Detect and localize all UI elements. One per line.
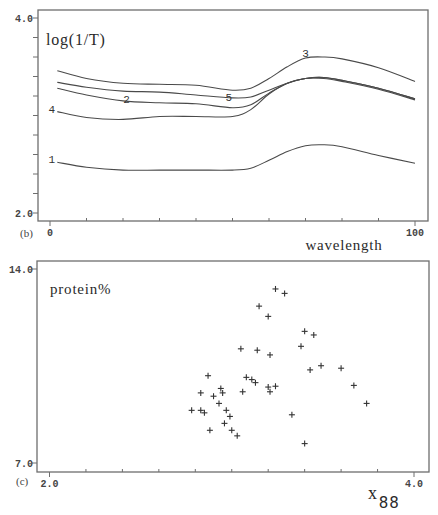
plus-marker bbox=[223, 407, 229, 413]
y-tick-label-max: 14.0 bbox=[9, 265, 33, 276]
spectrum-curve-5 bbox=[57, 77, 415, 99]
plus-marker bbox=[311, 332, 317, 338]
x-axis-title-subscript: 88 bbox=[379, 494, 400, 512]
plus-marker bbox=[307, 367, 313, 373]
plus-marker bbox=[227, 413, 233, 419]
curve-labels: 12345 bbox=[49, 48, 309, 166]
plus-marker bbox=[364, 400, 370, 406]
figure: 12345 4.0 2.0 (b) 0 100 wavelength log(1… bbox=[0, 0, 438, 515]
x-tick-label-min: 0 bbox=[47, 228, 53, 239]
plus-marker bbox=[256, 303, 262, 309]
plus-marker bbox=[243, 374, 249, 380]
y-tick-label-min: 7.0 bbox=[15, 459, 33, 470]
panel-label: (b) bbox=[20, 227, 33, 240]
curve-number-label: 1 bbox=[49, 154, 56, 166]
plus-marker bbox=[282, 290, 288, 296]
x-axis-title-base: x bbox=[368, 483, 378, 503]
plus-marker bbox=[318, 363, 324, 369]
x-axis-title: x88 bbox=[368, 483, 400, 512]
plus-marker bbox=[289, 412, 295, 418]
y-tick-label-max: 4.0 bbox=[15, 14, 33, 25]
plus-marker bbox=[272, 286, 278, 292]
protein-scatter-chart: 14.0 7.0 (c) 2.0 4.0 protein% x88 bbox=[9, 261, 429, 512]
plus-marker bbox=[351, 382, 357, 388]
y-tick-label-min: 2.0 bbox=[15, 209, 33, 220]
plus-marker bbox=[238, 346, 244, 352]
x-tick-label-max: 100 bbox=[406, 228, 424, 239]
plus-marker bbox=[216, 400, 222, 406]
spectrum-curve-1 bbox=[57, 145, 415, 171]
y-axis-title: log(1/T) bbox=[46, 31, 106, 49]
x-axis-title: wavelength bbox=[305, 237, 382, 253]
x-tick-label-max: 4.0 bbox=[405, 479, 423, 490]
plus-marker bbox=[198, 390, 204, 396]
y-axis-title: protein% bbox=[50, 281, 111, 297]
plus-marker bbox=[252, 380, 258, 386]
curve-number-label: 5 bbox=[226, 92, 233, 104]
plus-marker bbox=[234, 433, 240, 439]
plus-marker bbox=[302, 441, 308, 447]
plus-marker bbox=[229, 427, 235, 433]
curve-number-label: 4 bbox=[49, 104, 56, 116]
curve-number-label: 2 bbox=[123, 94, 130, 106]
spectra-curves bbox=[57, 57, 415, 171]
plus-marker bbox=[254, 347, 260, 353]
plus-marker bbox=[265, 313, 271, 319]
axis-ticks bbox=[32, 269, 414, 477]
axis-ticks bbox=[33, 18, 415, 226]
plus-marker bbox=[221, 420, 227, 426]
x-tick-label-min: 2.0 bbox=[40, 479, 58, 490]
plus-marker bbox=[338, 365, 344, 371]
plus-marker bbox=[302, 328, 308, 334]
plus-marker bbox=[205, 373, 211, 379]
plus-marker bbox=[189, 407, 195, 413]
plus-marker bbox=[249, 377, 255, 383]
plus-marker bbox=[207, 427, 213, 433]
curve-number-label: 3 bbox=[302, 48, 309, 60]
plus-marker bbox=[272, 383, 278, 389]
plus-marker bbox=[298, 343, 304, 349]
plus-marker bbox=[240, 389, 246, 395]
plus-marker bbox=[211, 393, 217, 399]
plus-marker bbox=[267, 352, 273, 358]
panel-label: (c) bbox=[16, 475, 29, 488]
spectra-chart: 12345 4.0 2.0 (b) 0 100 wavelength log(1… bbox=[15, 10, 428, 253]
scatter-points bbox=[189, 286, 370, 447]
